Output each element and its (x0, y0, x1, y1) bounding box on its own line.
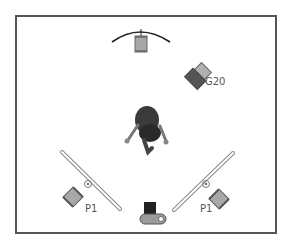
camera-body-icon (144, 202, 156, 214)
p1-right-label: P1 (200, 203, 212, 214)
background-light (112, 29, 170, 52)
lighting-diagram (0, 0, 291, 244)
subject-figure (125, 106, 169, 152)
g20-label: G20 (205, 76, 225, 87)
p1-left-light (63, 187, 83, 207)
light-head-icon (63, 187, 83, 207)
softbox-icon (135, 36, 147, 52)
camera (140, 202, 166, 224)
p1-left-label: P1 (85, 203, 97, 214)
